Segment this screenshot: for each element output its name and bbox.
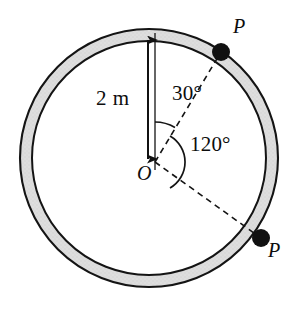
radius-dimension-label: 2 m bbox=[96, 88, 130, 109]
angle-label-30: 30° bbox=[172, 83, 202, 104]
point-label-p-top: P bbox=[233, 16, 245, 36]
center-point-label-o: O bbox=[137, 163, 151, 183]
point-label-p-bottom: P bbox=[268, 240, 280, 260]
angle-label-120: 120° bbox=[190, 134, 231, 155]
ring-band-fill bbox=[0, 0, 303, 311]
point-dot-p-top bbox=[212, 43, 230, 61]
figure-canvas: 2 m 30° 120° O P P bbox=[0, 0, 303, 311]
ring-diagram-svg bbox=[0, 0, 303, 311]
